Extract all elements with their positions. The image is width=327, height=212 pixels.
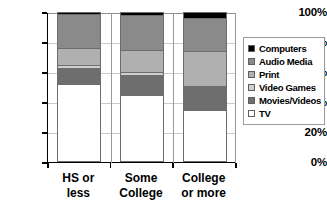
y-axis-tick-label: 100% xyxy=(285,7,327,18)
x-axis-label-line: HS or xyxy=(43,171,113,186)
bar-segment xyxy=(57,48,101,65)
x-axis-tick-mark xyxy=(235,163,237,168)
x-axis-tick-mark xyxy=(172,163,174,168)
legend-label: TV xyxy=(259,108,271,119)
legend-label: Print xyxy=(259,69,279,80)
legend-color-swatch xyxy=(248,110,255,117)
plot-right-border xyxy=(235,13,236,163)
x-axis-label-line: less xyxy=(43,186,113,201)
category-separator xyxy=(111,13,112,163)
stacked-bar xyxy=(120,12,164,162)
legend-color-swatch xyxy=(248,97,255,104)
legend-label: Movies/Videos xyxy=(259,95,321,106)
x-axis-label-line: or more xyxy=(169,186,239,201)
stacked-bar-chart: 0%20%40%60%80%100% HS orlessSomeCollegeC… xyxy=(0,0,327,212)
bar-segment xyxy=(120,75,164,95)
legend-item[interactable]: Computers xyxy=(248,42,321,55)
legend-item[interactable]: Audio Media xyxy=(248,55,321,68)
bar-segment xyxy=(183,87,227,110)
bar-segment xyxy=(57,14,101,49)
legend-item-list: ComputersAudio MediaPrintVideo GamesMovi… xyxy=(248,42,321,120)
x-axis-label-line: College xyxy=(169,171,239,186)
category-separator xyxy=(173,13,174,163)
legend-item[interactable]: Movies/Videos xyxy=(248,94,321,107)
bar-segment xyxy=(57,68,101,85)
bar-segment xyxy=(183,110,227,163)
legend-item[interactable]: Video Games xyxy=(248,81,321,94)
y-axis-tick-label: 0% xyxy=(285,157,327,168)
stacked-bar xyxy=(57,12,101,162)
x-axis-tick-mark xyxy=(110,163,112,168)
x-axis-label-line: Some xyxy=(106,171,176,186)
x-axis-category-label: Collegeor more xyxy=(169,171,239,201)
legend-color-swatch xyxy=(248,84,255,91)
legend-label: Video Games xyxy=(259,82,316,93)
legend-item[interactable]: TV xyxy=(248,107,321,120)
x-axis-category-label: SomeCollege xyxy=(106,171,176,201)
legend-color-swatch xyxy=(248,58,255,65)
legend-label: Computers xyxy=(259,43,306,54)
chart-legend: ComputersAudio MediaPrintVideo GamesMovi… xyxy=(243,37,325,125)
legend-color-swatch xyxy=(248,45,255,52)
x-axis-tick-mark xyxy=(47,163,49,168)
bar-segment xyxy=(183,51,227,86)
legend-color-swatch xyxy=(248,71,255,78)
x-axis-category-label: HS orless xyxy=(43,171,113,201)
bar-segment xyxy=(183,18,227,51)
y-axis-tick-label: 20% xyxy=(285,127,327,138)
legend-label: Audio Media xyxy=(259,56,312,67)
stacked-bar xyxy=(183,12,227,162)
bar-segment xyxy=(57,84,101,162)
legend-item[interactable]: Print xyxy=(248,68,321,81)
bar-segment xyxy=(120,95,164,163)
x-axis-label-line: College xyxy=(106,186,176,201)
bar-segment xyxy=(120,50,164,73)
plot-area xyxy=(47,13,235,163)
bar-segment xyxy=(120,15,164,50)
